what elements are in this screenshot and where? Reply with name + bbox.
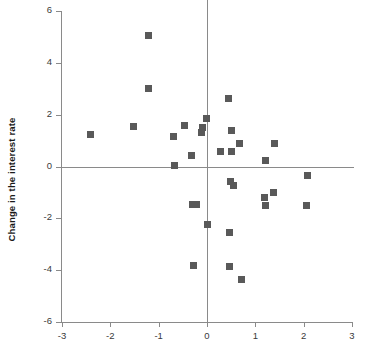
y-tick-label: 6 — [30, 4, 52, 15]
data-point — [130, 123, 137, 130]
x-tick-label: 1 — [240, 330, 270, 341]
x-tick-mark — [159, 322, 160, 327]
data-point — [170, 133, 177, 140]
data-point — [236, 140, 243, 147]
y-tick-mark — [56, 115, 62, 116]
data-point — [262, 202, 269, 209]
data-point — [230, 182, 237, 189]
data-point — [193, 201, 200, 208]
x-tick-label: 3 — [337, 330, 367, 341]
x-tick-label: -3 — [47, 330, 77, 341]
data-point — [145, 32, 152, 39]
y-tick-label: -4 — [30, 263, 52, 274]
y-tick-label: -2 — [30, 211, 52, 222]
data-point — [225, 95, 232, 102]
data-point — [303, 202, 310, 209]
data-point — [271, 140, 278, 147]
data-point — [204, 221, 211, 228]
data-point — [226, 229, 233, 236]
zero-vertical-axis — [207, 0, 208, 322]
data-point — [87, 131, 94, 138]
x-tick-mark — [110, 322, 111, 327]
y-tick-mark — [56, 322, 62, 323]
y-tick-label: -6 — [30, 315, 52, 326]
data-point — [262, 157, 269, 164]
x-tick-mark — [62, 322, 63, 327]
x-tick-label: 0 — [192, 330, 222, 341]
data-point — [238, 276, 245, 283]
y-tick-label: 2 — [30, 108, 52, 119]
y-tick-label: 0 — [30, 160, 52, 171]
y-tick-mark — [56, 218, 62, 219]
x-tick-mark — [352, 322, 353, 327]
plot-area: -3-2-10123 6420-2-4-6 — [62, 11, 352, 322]
x-tick-mark — [255, 322, 256, 327]
y-tick-mark — [56, 63, 62, 64]
data-point — [228, 148, 235, 155]
data-point — [228, 127, 235, 134]
data-point — [188, 152, 195, 159]
y-tick-mark — [56, 270, 62, 271]
scatter-chart-figure: Change in the interest rate -3-2-10123 6… — [0, 0, 377, 359]
y-tick-mark — [56, 167, 62, 168]
data-point — [190, 262, 197, 269]
x-tick-mark — [207, 322, 208, 327]
x-tick-label: 2 — [289, 330, 319, 341]
x-tick-mark — [304, 322, 305, 327]
x-tick-label: -2 — [95, 330, 125, 341]
data-point — [203, 115, 210, 122]
y-tick-label: 4 — [30, 56, 52, 67]
y-axis-title: Change in the interest rate — [0, 0, 22, 359]
data-point — [226, 263, 233, 270]
data-point — [181, 122, 188, 129]
data-point — [304, 172, 311, 179]
y-tick-mark — [56, 11, 62, 12]
data-point — [261, 194, 268, 201]
data-point — [171, 162, 178, 169]
data-point — [199, 124, 206, 131]
data-point — [217, 148, 224, 155]
x-tick-label: -1 — [144, 330, 174, 341]
data-point — [145, 85, 152, 92]
data-point — [270, 189, 277, 196]
